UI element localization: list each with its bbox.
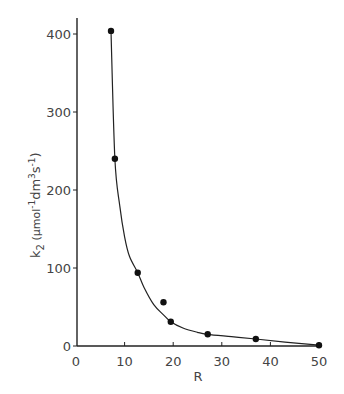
axes: 010020030040001020304050 [46, 18, 327, 369]
data-point [316, 342, 322, 348]
data-point [168, 319, 174, 325]
y-tick-label: 300 [46, 105, 71, 120]
chart-container: 010020030040001020304050 Rk2 (μmol-1dm3s… [0, 0, 344, 394]
y-tick-label: 0 [63, 339, 71, 354]
fit-curve-path [111, 31, 319, 345]
data-point [253, 336, 259, 342]
x-tick-label: 0 [72, 354, 80, 369]
data-point [160, 299, 166, 305]
data-point [108, 28, 114, 34]
x-tick-label: 40 [262, 354, 279, 369]
chart-svg: 010020030040001020304050 Rk2 (μmol-1dm3s… [0, 0, 344, 394]
data-point [205, 331, 211, 337]
x-axis-label: R [193, 369, 202, 384]
x-tick-label: 50 [311, 354, 328, 369]
data-point [112, 156, 118, 162]
y-axis-label: k2 (μmol-1dm3s-1) [27, 152, 46, 258]
x-tick-label: 30 [214, 354, 231, 369]
data-points [108, 28, 322, 349]
y-tick-label: 200 [46, 183, 71, 198]
x-tick-label: 20 [165, 354, 182, 369]
x-tick-label: 10 [116, 354, 133, 369]
y-tick-label: 400 [46, 27, 71, 42]
data-point [135, 269, 141, 275]
fit-curve [111, 31, 319, 345]
y-tick-label: 100 [46, 261, 71, 276]
